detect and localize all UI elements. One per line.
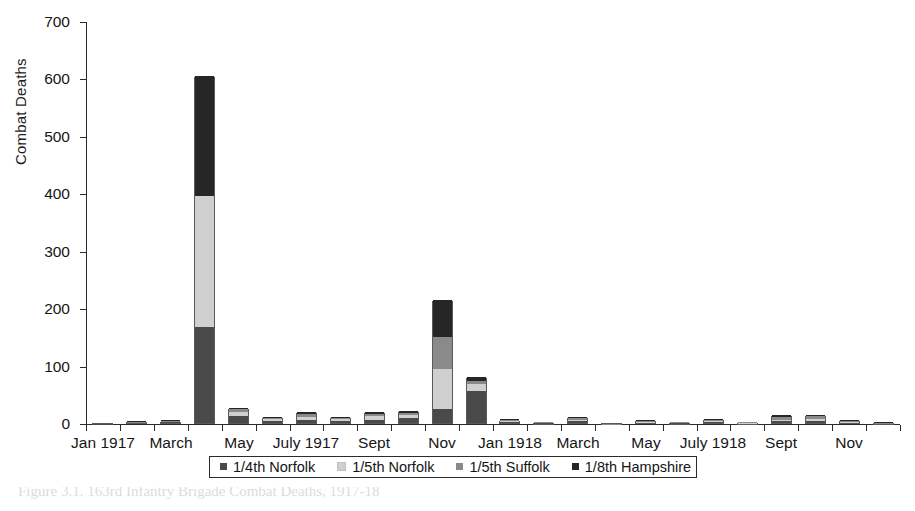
bar-stack[interactable] bbox=[703, 420, 724, 424]
bar-segment bbox=[500, 420, 519, 421]
bar-segment bbox=[806, 421, 825, 423]
bar-segment bbox=[840, 421, 859, 422]
x-axis-tick bbox=[866, 425, 867, 431]
y-axis-tick bbox=[80, 309, 86, 310]
legend-swatch-icon bbox=[337, 462, 346, 471]
bar-segment bbox=[772, 421, 791, 423]
chart-legend: 1/4th Norfolk1/5th Norfolk1/5th Suffolk1… bbox=[209, 456, 697, 478]
bar-stack[interactable] bbox=[432, 301, 453, 424]
bar-segment bbox=[229, 416, 248, 423]
bar-stack[interactable] bbox=[873, 423, 894, 425]
x-tick-label: Nov bbox=[835, 434, 863, 452]
x-tick-label: March bbox=[556, 434, 599, 452]
bar-segment bbox=[670, 422, 689, 423]
y-tick-label: 400 bbox=[24, 186, 70, 202]
bar-segment bbox=[195, 76, 214, 197]
legend-item[interactable]: 1/4th Norfolk bbox=[220, 459, 315, 475]
bar-stack[interactable] bbox=[262, 418, 283, 424]
bar-stack[interactable] bbox=[499, 421, 520, 424]
bar-segment bbox=[263, 421, 282, 423]
x-axis-tick bbox=[86, 425, 87, 431]
bar-segment bbox=[806, 419, 825, 421]
bar-segment bbox=[195, 196, 214, 327]
bar-segment bbox=[229, 412, 248, 417]
bar-segment bbox=[297, 412, 316, 414]
bar-segment bbox=[331, 421, 350, 423]
bar-segment bbox=[704, 419, 723, 420]
bar-stack[interactable] bbox=[296, 413, 317, 424]
legend-swatch-icon bbox=[572, 463, 579, 470]
y-axis-tick bbox=[80, 367, 86, 368]
bar-segment bbox=[331, 417, 350, 418]
bar-stack[interactable] bbox=[839, 421, 860, 424]
bar-stack[interactable] bbox=[737, 423, 758, 425]
x-axis-tick bbox=[697, 425, 698, 431]
bar-segment bbox=[568, 420, 587, 421]
y-axis-tick bbox=[80, 22, 86, 23]
bar-segment bbox=[297, 417, 316, 420]
bar-stack[interactable] bbox=[160, 422, 181, 424]
bar-segment bbox=[161, 422, 180, 423]
legend-label: 1/4th Norfolk bbox=[233, 459, 315, 475]
legend-item[interactable]: 1/5th Suffolk bbox=[456, 459, 549, 475]
bar-stack[interactable] bbox=[635, 421, 656, 424]
bar-stack[interactable] bbox=[567, 418, 588, 424]
y-tick-label: 500 bbox=[24, 129, 70, 145]
legend-item[interactable]: 1/5th Norfolk bbox=[337, 459, 434, 475]
bar-stack[interactable] bbox=[364, 413, 385, 424]
bar-stack[interactable] bbox=[126, 422, 147, 424]
bar-segment bbox=[772, 417, 791, 420]
x-axis-tick bbox=[730, 425, 731, 431]
x-tick-label: May bbox=[224, 434, 253, 452]
bar-segment bbox=[636, 420, 655, 421]
x-axis-tick bbox=[222, 425, 223, 431]
bar-segment bbox=[840, 420, 859, 421]
bar-segment bbox=[500, 419, 519, 420]
bar-segment bbox=[399, 411, 418, 413]
y-axis-tick bbox=[80, 137, 86, 138]
y-axis-tick bbox=[80, 79, 86, 80]
bar-segment bbox=[704, 421, 723, 423]
bar-segment bbox=[738, 422, 757, 423]
x-axis-tick bbox=[629, 425, 630, 431]
legend-item[interactable]: 1/8th Hampshire bbox=[572, 459, 691, 475]
x-axis-tick bbox=[357, 425, 358, 431]
figure-caption-strip: Figure 3.1. 163rd Infantry Brigade Comba… bbox=[0, 487, 915, 511]
x-axis-tick bbox=[527, 425, 528, 431]
bar-segment bbox=[229, 409, 248, 411]
y-tick-label: 700 bbox=[24, 14, 70, 30]
bar-stack[interactable] bbox=[771, 416, 792, 424]
bar-segment bbox=[602, 424, 621, 425]
bar-stack[interactable] bbox=[669, 423, 690, 425]
bar-segment bbox=[467, 391, 486, 423]
x-tick-label: Sept bbox=[765, 434, 797, 452]
bar-segment bbox=[365, 414, 384, 416]
bar-stack[interactable] bbox=[92, 423, 113, 425]
bar-segment bbox=[433, 409, 452, 423]
x-axis-tick bbox=[459, 425, 460, 431]
bar-segment bbox=[195, 327, 214, 423]
y-tick-label: 100 bbox=[24, 359, 70, 375]
bar-stack[interactable] bbox=[805, 416, 826, 424]
bar-stack[interactable] bbox=[398, 412, 419, 424]
bar-stack[interactable] bbox=[330, 418, 351, 424]
bar-segment bbox=[263, 419, 282, 421]
x-axis-tick bbox=[595, 425, 596, 431]
bar-stack[interactable] bbox=[601, 423, 622, 425]
bar-stack[interactable] bbox=[533, 423, 554, 425]
bar-stack[interactable] bbox=[466, 378, 487, 424]
legend-label: 1/8th Hampshire bbox=[585, 459, 691, 475]
bar-segment bbox=[806, 415, 825, 416]
bar-stack[interactable] bbox=[194, 77, 215, 424]
bar-stack[interactable] bbox=[228, 409, 249, 424]
x-axis-tick bbox=[154, 425, 155, 431]
bar-segment bbox=[399, 418, 418, 423]
x-tick-label: Jan 1918 bbox=[478, 434, 542, 452]
y-tick-label: 600 bbox=[24, 71, 70, 87]
bar-segment bbox=[467, 381, 486, 384]
x-axis-tick bbox=[256, 425, 257, 431]
x-axis-tick bbox=[663, 425, 664, 431]
bar-segment bbox=[568, 421, 587, 423]
legend-label: 1/5th Suffolk bbox=[469, 459, 549, 475]
y-axis-tick bbox=[80, 194, 86, 195]
